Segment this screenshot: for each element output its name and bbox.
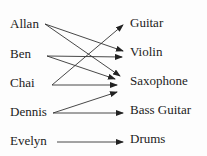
mapping-arrow (47, 56, 122, 57)
mapping-arrow (53, 92, 117, 113)
instrument-label: Violin (130, 45, 162, 59)
mapping-diagram: AllanBenChaiDennisEvelynGuitarViolinSaxo… (0, 0, 207, 156)
person-label: Dennis (10, 105, 47, 119)
mapping-arrow (52, 25, 123, 85)
person-label: Evelyn (10, 134, 47, 148)
mapping-arrow (45, 24, 123, 51)
instrument-label: Drums (130, 132, 165, 146)
person-label: Allan (10, 17, 39, 31)
mapping-arrow (47, 56, 115, 79)
person-label: Ben (10, 47, 31, 61)
instrument-label: Guitar (130, 16, 163, 30)
person-label: Chai (10, 76, 35, 90)
instrument-label: Bass Guitar (130, 103, 191, 117)
instrument-label: Saxophone (130, 74, 188, 88)
